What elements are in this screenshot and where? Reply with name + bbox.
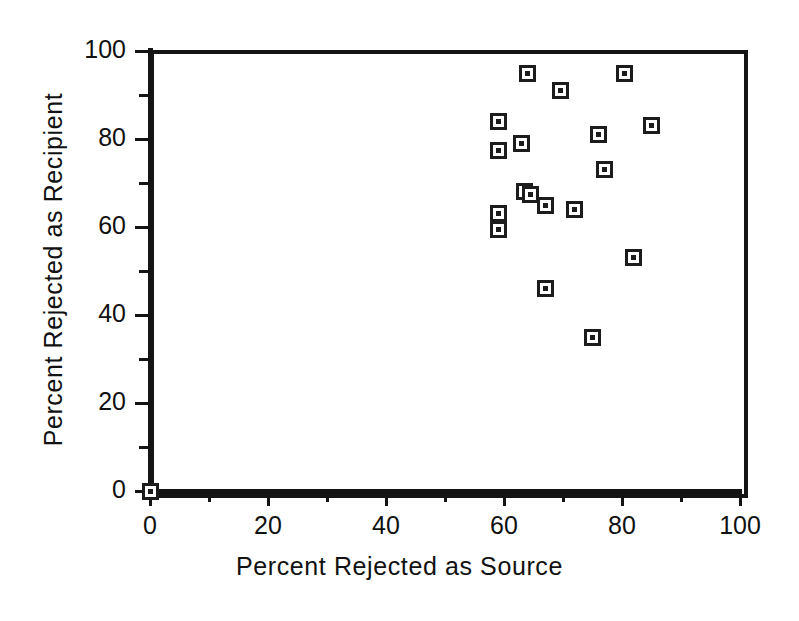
- marker-center-dot: [596, 132, 601, 137]
- marker-center-dot: [543, 203, 548, 208]
- marker-center-dot: [496, 119, 501, 124]
- data-point-marker: [616, 65, 633, 82]
- data-point-marker: [625, 249, 642, 266]
- data-point-marker: [537, 280, 554, 297]
- data-point-marker: [566, 201, 583, 218]
- x-tick-major: [503, 491, 506, 506]
- y-tick-label-text: 20: [78, 387, 126, 416]
- data-point-marker: [537, 197, 554, 214]
- marker-center-dot: [558, 88, 563, 93]
- data-point-marker: [643, 117, 660, 134]
- y-tick-minor: [139, 182, 150, 185]
- y-axis-title: Percent Rejected as Recipient: [39, 50, 68, 490]
- data-point-marker: [596, 161, 613, 178]
- x-tick-label: 80: [587, 511, 657, 540]
- x-tick-major: [385, 491, 388, 506]
- chart-page: 020406080100 020406080100 Percent Reject…: [0, 0, 799, 621]
- x-tick-minor: [444, 491, 447, 502]
- x-tick-label: 0: [115, 511, 185, 540]
- marker-center-dot: [496, 148, 501, 153]
- marker-center-dot: [525, 71, 530, 76]
- x-tick-minor: [680, 491, 683, 502]
- data-point-marker: [552, 82, 569, 99]
- x-tick-minor: [208, 491, 211, 502]
- x-tick-label: 60: [469, 511, 539, 540]
- y-tick-major: [135, 314, 150, 317]
- y-tick-label-text: 100: [78, 35, 126, 64]
- y-tick-major: [135, 50, 150, 53]
- marker-center-dot: [528, 192, 533, 197]
- marker-center-dot: [631, 255, 636, 260]
- marker-center-dot: [543, 286, 548, 291]
- x-tick-minor: [326, 491, 329, 502]
- marker-center-dot: [622, 71, 627, 76]
- y-tick-label-text: 0: [78, 475, 126, 504]
- x-tick-minor: [562, 491, 565, 502]
- x-tick-label: 40: [351, 511, 421, 540]
- y-tick-minor: [139, 94, 150, 97]
- x-tick-major: [267, 491, 270, 506]
- x-tick-label: 100: [705, 511, 775, 540]
- y-tick-major: [135, 402, 150, 405]
- marker-center-dot: [519, 141, 524, 146]
- data-point-marker: [519, 65, 536, 82]
- marker-center-dot: [602, 167, 607, 172]
- x-axis-title: Percent Rejected as Source: [0, 552, 799, 581]
- y-tick-minor: [139, 358, 150, 361]
- marker-center-dot: [572, 207, 577, 212]
- data-point-marker: [490, 113, 507, 130]
- marker-center-dot: [496, 211, 501, 216]
- y-tick-minor: [139, 270, 150, 273]
- data-point-marker: [584, 329, 601, 346]
- x-tick-major: [621, 491, 624, 506]
- data-point-marker: [490, 221, 507, 238]
- y-tick-major: [135, 138, 150, 141]
- marker-center-dot: [649, 123, 654, 128]
- y-tick-label-text: 80: [78, 123, 126, 152]
- marker-center-dot: [148, 489, 153, 494]
- data-point-marker: [513, 135, 530, 152]
- y-tick-major: [135, 226, 150, 229]
- data-point-marker: [490, 142, 507, 159]
- x-tick-major: [739, 491, 742, 506]
- y-tick-minor: [139, 446, 150, 449]
- y-tick-label-text: 60: [78, 211, 126, 240]
- y-tick-label-text: 40: [78, 299, 126, 328]
- x-tick-label: 20: [233, 511, 303, 540]
- data-point-marker: [590, 126, 607, 143]
- marker-center-dot: [590, 335, 595, 340]
- data-point-marker: [142, 483, 159, 500]
- marker-center-dot: [496, 227, 501, 232]
